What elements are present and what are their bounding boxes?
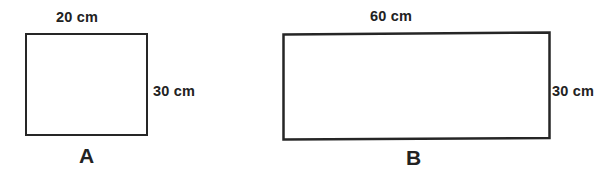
rectangle-b-outline xyxy=(278,26,556,148)
rectangle-b-height-label: 30 cm xyxy=(552,84,594,99)
rectangle-b-name-label: B xyxy=(406,147,421,168)
rectangle-a-outline xyxy=(25,33,148,136)
rectangle-a-width-label: 20 cm xyxy=(56,10,98,25)
rectangle-a-height-label: 30 cm xyxy=(153,84,195,99)
geometry-figure-canvas: 20 cm 30 cm A 60 cm 30 cm B xyxy=(0,0,616,179)
rectangle-a-name-label: A xyxy=(79,145,94,166)
rectangle-b-width-label: 60 cm xyxy=(370,9,412,24)
